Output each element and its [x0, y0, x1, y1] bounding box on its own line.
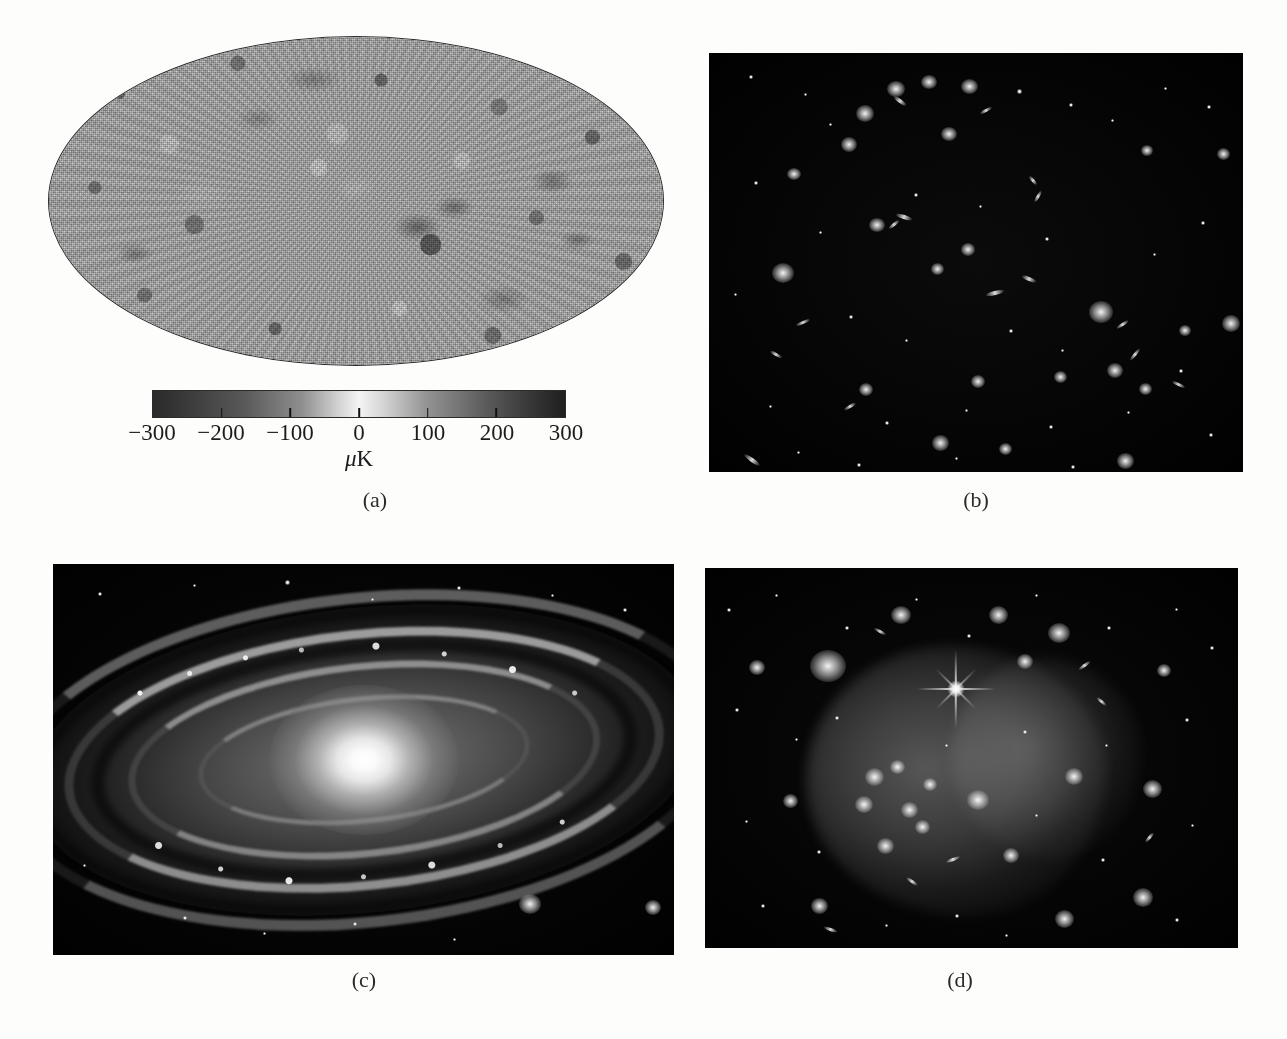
panel-caption-d: (d): [900, 967, 1020, 993]
colorbar-label--100: −100: [266, 420, 313, 446]
kelvin-symbol: K: [356, 446, 373, 471]
cmb-allsky-map-panel: [48, 36, 664, 366]
cmb-pixel-grain: [49, 37, 663, 365]
colorbar: −300 −200 −100 0 100 200 300: [152, 390, 566, 450]
panel-caption-b: (b): [916, 487, 1036, 513]
colorbar-tick-200: [496, 408, 498, 417]
panel-caption-a: (a): [315, 487, 435, 513]
panel-caption-c: (c): [304, 967, 424, 993]
colorbar-label--300: −300: [128, 420, 175, 446]
galaxy-cluster-image: [705, 568, 1238, 948]
colorbar-tick--100: [290, 408, 292, 417]
colorbar-label-0: 0: [353, 420, 365, 446]
colorbar-tick--200: [221, 408, 223, 417]
cluster-member-galaxies: [705, 568, 1238, 948]
colorbar-label-300: 300: [549, 420, 584, 446]
colorbar-unit-label: μK: [152, 446, 566, 472]
colorbar-label-200: 200: [480, 420, 515, 446]
bright-foreground-star: [955, 688, 957, 690]
colorbar-tick-0: [358, 408, 360, 417]
galaxy-field: [709, 53, 1243, 472]
colorbar-gradient: [152, 390, 566, 418]
mu-symbol: μ: [345, 446, 357, 471]
colorbar-label-100: 100: [411, 420, 446, 446]
spiral-galaxy-image: [53, 564, 674, 955]
mollweide-ellipse-outline: [48, 36, 664, 366]
companion-galaxy-2: [645, 900, 661, 915]
companion-galaxy: [519, 894, 541, 914]
deep-field-image: [709, 53, 1243, 472]
colorbar-label--200: −200: [197, 420, 244, 446]
colorbar-tick-100: [427, 408, 429, 417]
foreground-stars: [53, 564, 674, 955]
